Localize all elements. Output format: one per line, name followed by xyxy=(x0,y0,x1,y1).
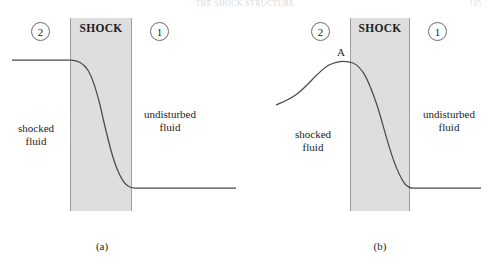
panel-caption-a: (a) xyxy=(82,240,122,252)
figure-panel-b: SHOCK 2 1 A shocked fluid undisturbed fl… xyxy=(245,0,490,270)
profile-path-b xyxy=(276,61,481,188)
figure-page: THE SHOCK STRUCTURE 185 SHOCK 2 1 shocke… xyxy=(0,0,490,270)
profile-curve-b xyxy=(245,0,490,270)
panel-caption-b: (b) xyxy=(360,240,400,252)
figure-panel-a: SHOCK 2 1 shocked fluid undisturbed flui… xyxy=(0,0,245,270)
profile-curve-a xyxy=(0,0,245,270)
profile-path-a xyxy=(12,60,236,188)
